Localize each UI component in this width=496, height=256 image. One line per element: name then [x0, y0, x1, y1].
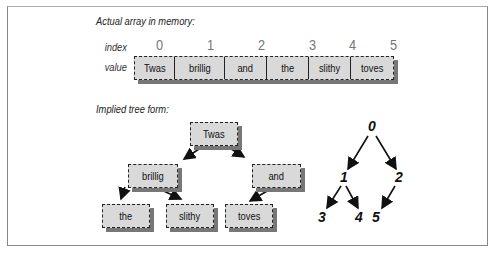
index-node-4: 4 — [355, 209, 363, 225]
node-label: the — [119, 205, 132, 227]
tree-node-toves: toves — [225, 204, 273, 228]
tree-node-brillig: brillig — [128, 164, 178, 188]
node-label: Twas — [203, 123, 225, 145]
node-label: brillig — [142, 165, 164, 187]
node-label: toves — [238, 205, 260, 227]
index-node-1: 1 — [340, 169, 348, 185]
index-node-0: 0 — [368, 118, 376, 134]
tree-node-the: the — [102, 204, 150, 228]
index-node-3: 3 — [318, 209, 326, 225]
node-label: and — [269, 165, 285, 187]
tree-node-twas: Twas — [190, 122, 238, 146]
index-node-5: 5 — [372, 209, 380, 225]
node-label: slithy — [179, 205, 200, 227]
tree-node-slithy: slithy — [166, 204, 214, 228]
index-node-2: 2 — [395, 169, 403, 185]
tree-node-and: and — [252, 164, 301, 188]
